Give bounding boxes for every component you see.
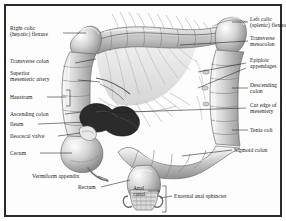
label-haustrum: Haustrum — [10, 94, 32, 100]
label-transverse-colon: Transverse colon — [10, 58, 49, 64]
label-cut-edge-of-mesentery: Cut edge of mesentery — [250, 102, 277, 115]
label-left-colic-flexure: Left colic (splenic) flexure — [250, 16, 286, 29]
label-transverse-mesocolon: Transverse mesocolon — [250, 35, 275, 48]
label-rectum: Rectum — [78, 184, 96, 190]
transverse-mesocolon-shape — [96, 41, 196, 105]
left-colic-flexure-shape — [214, 17, 246, 56]
label-sigmoid-colon: Sigmoid colon — [234, 147, 267, 153]
label-tenia-coli: Tenia coli — [250, 127, 273, 133]
label-superior-mesenteric-artery: Superior mesenteric artery — [10, 70, 50, 83]
label-ileum: Ileum — [10, 121, 23, 127]
anatomy-figure: Right colic (hepatic) flexure Transverse… — [0, 0, 286, 221]
label-descending-colon: Descending colon — [250, 82, 277, 95]
label-right-colic-flexure: Right colic (hepatic) flexure — [10, 25, 48, 38]
epiploic-appendages-shape — [202, 70, 210, 106]
label-anal-canal: Anal canal — [133, 185, 145, 198]
label-ileocecal-valve: Ileocecal valve — [10, 133, 44, 139]
label-cecum: Cecum — [10, 150, 26, 156]
label-epiploic-appendages: Epiploic appendages — [250, 57, 277, 70]
label-ascending-colon: Ascending colon — [10, 111, 49, 117]
label-vermiform-appendix: Vermiform appendix — [32, 173, 79, 179]
cecum-shape — [61, 136, 103, 173]
label-external-anal-sphincter: External anal sphincter — [174, 193, 227, 199]
